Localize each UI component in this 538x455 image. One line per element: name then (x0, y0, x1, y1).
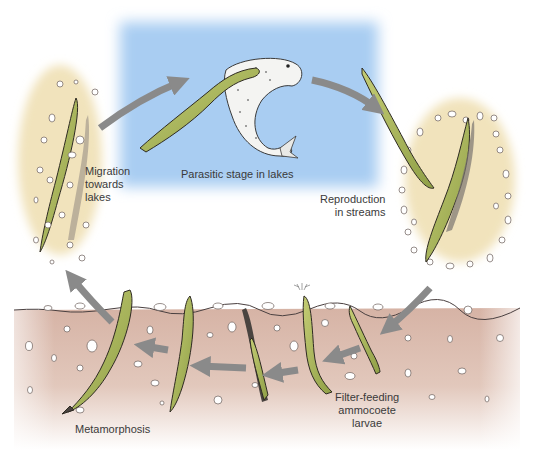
label-filter-line1: Filter-feeding (335, 391, 399, 404)
label-filter-line3: larvae (335, 417, 399, 430)
lamprey-life-cycle-diagram (0, 0, 538, 455)
label-parasitic-stage: Parasitic stage in lakes (181, 168, 294, 181)
label-metamorphosis: Metamorphosis (75, 423, 150, 436)
reproduction-nest (362, 68, 515, 269)
arrow-metamorphosis-step (144, 346, 168, 350)
label-migration-line2: towards (85, 178, 130, 191)
arrow-larva-to-metamorphosis (200, 366, 246, 368)
label-reproduction: Reproduction in streams (320, 193, 385, 219)
label-migration: Migration towards lakes (85, 165, 130, 204)
label-migration-line3: lakes (85, 191, 130, 204)
label-migration-line1: Migration (85, 165, 130, 178)
label-reproduction-line1: Reproduction (320, 193, 385, 206)
label-filter-feeding: Filter-feeding ammocoete larvae (335, 391, 399, 430)
label-reproduction-line2: in streams (320, 206, 385, 219)
label-filter-line2: ammocoete (335, 404, 399, 417)
arrow-larva-to-larva-2 (272, 370, 298, 374)
